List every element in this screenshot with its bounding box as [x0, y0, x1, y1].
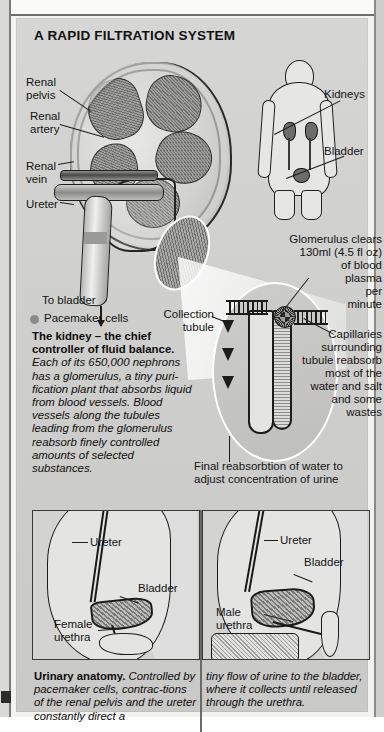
label-to-bladder: To bladder [42, 294, 96, 307]
label-kidneys: Kidneys [324, 88, 365, 101]
renal-artery-vessel [60, 170, 158, 181]
lower-diagram-divider [200, 510, 202, 732]
bottom-caption-lead: Urinary anatomy [34, 670, 122, 682]
male-urinary-diagram [202, 510, 370, 660]
figure-panel: A RAPID FILTRATION SYSTEM Renal pelvis R… [16, 18, 368, 712]
label-male-urethra: Male urethra [216, 606, 252, 632]
renal-vein-vessel [54, 184, 164, 201]
male-thigh-outline [211, 633, 299, 660]
label-female-urethra: Female urethra [54, 618, 92, 644]
page-title: A RAPID FILTRATION SYSTEM [34, 28, 235, 43]
kidney-caption-body: Each of its 650,000 nephrons has a glome… [32, 356, 192, 474]
scan-corner-mark [1, 691, 11, 703]
pacemaker-cell-bullet-icon [30, 315, 39, 324]
ureter-band [84, 232, 107, 244]
label-renal-pelvis: Renal pelvis [26, 76, 56, 102]
ureter-vessel [79, 195, 113, 306]
leader-line-final-reabsorption [229, 436, 230, 462]
label-male-bladder: Bladder [304, 556, 344, 569]
female-pubic-outline [99, 633, 153, 655]
note-capillaries: Capillaries surrounding tubule reabsorb … [262, 328, 382, 419]
collecting-tubule-arrows [222, 314, 236, 426]
label-female-ureter: Ureter [90, 536, 122, 549]
label-collection-tubule: Collection tubule [138, 308, 214, 334]
note-glomerulus-clears: Glomerulus clears 130ml (4.5 fl oz) of b… [226, 233, 382, 311]
kidney-caption: The kidney – the chief controller of flu… [32, 330, 192, 475]
leader-line-female-ureter [72, 542, 88, 543]
label-female-bladder: Bladder [138, 582, 178, 595]
figure-leg-right [301, 190, 322, 220]
label-renal-artery: Renal artery [30, 110, 60, 136]
figure-ureter-left [288, 138, 290, 170]
figure-ureter-right [309, 138, 311, 170]
bottom-caption-right: tiny flow of urine to the bladder, where… [206, 670, 370, 710]
note-final-reabsorption: Final reabsorbtion of water to adjust co… [194, 460, 343, 486]
kidney-cross-section-illustration [60, 58, 236, 308]
leader-line-male-ureter [264, 540, 278, 541]
page-top-strip [11, 0, 374, 16]
label-male-ureter: Ureter [280, 534, 312, 547]
figure-leg-left [274, 190, 295, 220]
bottom-caption-left: Urinary anatomy. Controlled by pacemaker… [34, 670, 198, 723]
male-penis-outline [321, 611, 339, 657]
label-pacemaker-cells: Pacemaker cells [44, 312, 128, 325]
scan-left-rule [9, 0, 11, 717]
label-bladder-figure: Bladder [324, 145, 364, 158]
label-renal-vein: Renal vein [26, 160, 56, 186]
bottom-caption-right-body: tiny flow of urine to the bladder, where… [206, 670, 362, 708]
bottom-caption-period: . [122, 670, 125, 682]
human-body-illustration [252, 60, 348, 218]
scan-left-margin [0, 0, 9, 717]
kidney-caption-period: . [171, 343, 174, 355]
label-ureter-main: Ureter [26, 198, 58, 211]
